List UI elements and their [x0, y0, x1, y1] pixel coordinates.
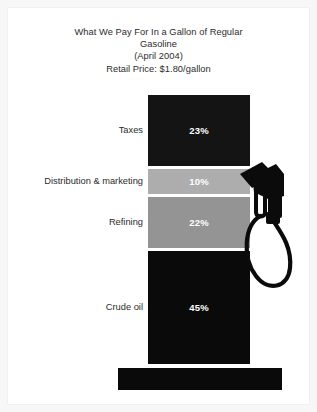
category-label-taxes: Taxes — [119, 125, 143, 135]
chart-annotation-retail-price: Retail Price: $1.80/gallon — [18, 63, 299, 75]
bar-value-label-distribution-marketing: 10% — [148, 176, 250, 187]
chart-plot-area: What We Pay For In a Gallon of Regular G… — [8, 8, 309, 404]
category-label-crude-oil: Crude oil — [106, 302, 143, 312]
chart-title-block: What We Pay For In a Gallon of Regular G… — [18, 26, 299, 75]
chart-title-line-2: Gasoline — [18, 38, 299, 50]
bar-value-label-refining: 22% — [148, 217, 250, 228]
chart-title-line-1: What We Pay For In a Gallon of Regular — [18, 26, 299, 38]
bar-value-label-crude-oil: 45% — [148, 302, 250, 313]
chart-page: What We Pay For In a Gallon of Regular G… — [0, 0, 317, 412]
chart-subtitle: (April 2004) — [18, 50, 299, 62]
pump-base-icon — [118, 368, 282, 390]
chart-card: What We Pay For In a Gallon of Regular G… — [8, 8, 309, 404]
category-label-distribution-marketing: Distribution & marketing — [44, 176, 143, 186]
fuel-nozzle-icon — [240, 160, 302, 310]
category-label-refining: Refining — [109, 217, 143, 227]
bar-value-label-taxes: 23% — [148, 125, 250, 136]
